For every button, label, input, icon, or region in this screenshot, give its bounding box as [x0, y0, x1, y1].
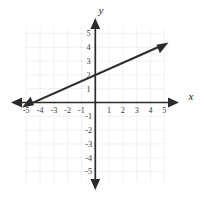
- x-tick-labels-positive: 1 2 3 4 5: [107, 106, 166, 115]
- y-tick-label: -5: [85, 167, 92, 176]
- y-axis-bottom-arrowhead: [90, 179, 100, 190]
- y-tick-label: 1: [86, 85, 90, 94]
- x-axis-label: x: [188, 90, 194, 102]
- y-tick-label: 4: [86, 43, 90, 52]
- x-tick-label: -2: [64, 106, 71, 115]
- x-tick-label: 5: [162, 106, 166, 115]
- x-tick-label: 3: [135, 106, 139, 115]
- x-tick-label: 4: [148, 106, 152, 115]
- y-axis-top-arrowhead: [90, 18, 100, 29]
- y-tick-labels-negative: -1 -2 -3 -4 -5: [85, 112, 92, 176]
- y-tick-label: -1: [85, 112, 92, 121]
- y-axis: [90, 18, 100, 190]
- x-tick-label: -1: [78, 106, 85, 115]
- y-tick-label: -2: [85, 126, 92, 135]
- line-right-arrowhead: [157, 43, 169, 54]
- x-tick-label: 1: [107, 106, 111, 115]
- x-tick-label: 2: [121, 106, 125, 115]
- y-tick-labels-positive: 5 4 3 2 1: [86, 29, 90, 93]
- x-tick-label: -3: [50, 106, 57, 115]
- y-tick-label: 2: [86, 71, 90, 80]
- x-tick-labels-negative: -5 -4 -3 -2 -1: [23, 106, 85, 115]
- x-axis-right-arrowhead: [168, 98, 179, 108]
- x-tick-label: -4: [37, 106, 44, 115]
- y-tick-label: 3: [86, 57, 90, 66]
- graph-canvas: -5 -4 -3 -2 -1 1 2 3 4 5 5 4 3 2 1 -1 -2…: [0, 0, 204, 201]
- x-tick-label: -5: [23, 106, 30, 115]
- x-axis-left-arrowhead: [11, 98, 22, 108]
- coordinate-plane-figure: -5 -4 -3 -2 -1 1 2 3 4 5 5 4 3 2 1 -1 -2…: [0, 0, 204, 201]
- y-tick-label: -3: [85, 140, 92, 149]
- y-tick-label: 5: [86, 29, 90, 38]
- y-tick-label: -4: [85, 154, 92, 163]
- y-axis-label: y: [98, 4, 104, 16]
